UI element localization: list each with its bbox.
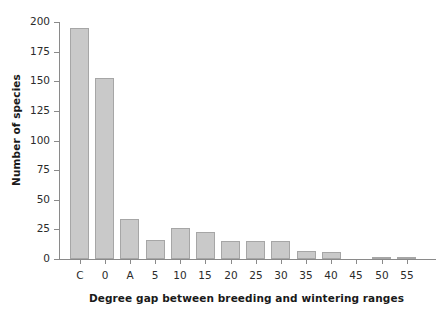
x-tick-mark xyxy=(180,259,181,264)
y-tick-mark xyxy=(54,52,59,53)
bar xyxy=(95,78,114,259)
x-tick-mark xyxy=(205,259,206,264)
y-tick-mark xyxy=(54,229,59,230)
x-tick-label: 5 xyxy=(152,269,159,281)
bar xyxy=(196,232,215,259)
bar xyxy=(221,241,240,259)
y-tick-label: 50 xyxy=(37,193,50,205)
y-tick-label: 150 xyxy=(30,74,50,86)
y-tick-label: 175 xyxy=(30,45,50,57)
x-tick-mark xyxy=(155,259,156,264)
y-tick-label: 0 xyxy=(43,252,50,264)
bar xyxy=(171,228,190,259)
x-tick-label: 15 xyxy=(198,269,211,281)
y-tick-label: 200 xyxy=(30,15,50,27)
x-axis-title: Degree gap between breeding and winterin… xyxy=(59,292,434,304)
bar xyxy=(297,251,316,259)
y-axis-title: Number of species xyxy=(6,0,26,260)
x-tick-mark xyxy=(306,259,307,264)
y-tick-mark xyxy=(54,81,59,82)
x-tick-mark xyxy=(407,259,408,264)
x-tick-label: 55 xyxy=(400,269,413,281)
y-tick-mark xyxy=(54,141,59,142)
y-tick-label: 125 xyxy=(30,104,50,116)
bar xyxy=(70,28,89,259)
bar xyxy=(146,240,165,259)
bar xyxy=(246,241,265,259)
bar xyxy=(322,252,341,259)
x-tick-label: A xyxy=(126,269,133,281)
x-tick-label: 20 xyxy=(224,269,237,281)
x-tick-label: 40 xyxy=(324,269,337,281)
x-tick-mark xyxy=(281,259,282,264)
x-tick-label: 50 xyxy=(375,269,388,281)
x-tick-mark xyxy=(356,259,357,264)
plot-area: 0255075100125150175200 C0A51015202530354… xyxy=(59,22,434,259)
x-tick-label: C xyxy=(76,269,83,281)
y-axis-title-text: Number of species xyxy=(10,74,22,186)
x-tick-label: 0 xyxy=(102,269,109,281)
x-tick-mark xyxy=(382,259,383,264)
x-tick-label: 25 xyxy=(249,269,262,281)
bar-chart-figure: Number of species 0255075100125150175200… xyxy=(0,0,441,316)
x-tick-mark xyxy=(105,259,106,264)
bar xyxy=(372,257,391,259)
x-tick-label: 45 xyxy=(349,269,362,281)
x-tick-mark xyxy=(256,259,257,264)
x-tick-label: 35 xyxy=(299,269,312,281)
y-tick-label: 75 xyxy=(37,163,50,175)
x-tick-mark xyxy=(80,259,81,264)
x-tick-mark xyxy=(130,259,131,264)
bar xyxy=(397,257,416,259)
y-tick-mark xyxy=(54,111,59,112)
bar xyxy=(271,241,290,259)
y-tick-label: 100 xyxy=(30,134,50,146)
x-tick-label: 10 xyxy=(173,269,186,281)
y-tick-mark xyxy=(54,200,59,201)
x-tick-label: 30 xyxy=(274,269,287,281)
y-tick-mark xyxy=(54,170,59,171)
x-tick-mark xyxy=(231,259,232,264)
y-tick-mark xyxy=(54,22,59,23)
y-tick-label: 25 xyxy=(37,222,50,234)
x-axis-line xyxy=(59,259,436,260)
bar xyxy=(120,219,139,259)
x-tick-mark xyxy=(331,259,332,264)
y-tick-mark xyxy=(54,259,59,260)
